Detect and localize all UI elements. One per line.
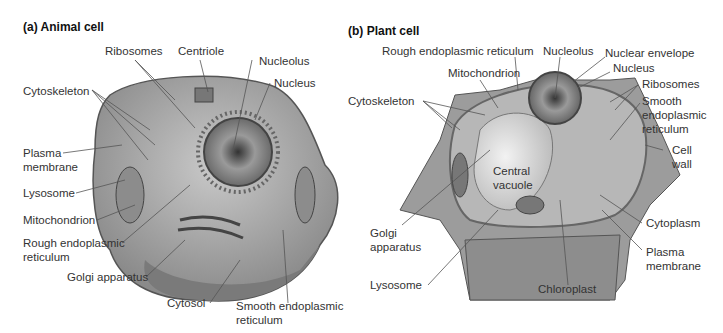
label-smooth-er-line1: Smooth endoplasmic xyxy=(236,300,343,312)
label-golgi-apparatus: Golgi apparatus xyxy=(370,226,421,254)
label-mitochondrion: Mitochondrion xyxy=(448,66,520,80)
label-nucleus: Nucleus xyxy=(613,61,655,75)
label-cytosol: Cytosol xyxy=(167,296,205,310)
label-nucleolus: Nucleolus xyxy=(259,54,310,68)
label-smooth-er-line2: reticulum xyxy=(236,314,283,326)
label-rough-er: Rough endoplasmic reticulum xyxy=(382,44,534,58)
label-plasma-membrane: Plasma membrane xyxy=(23,146,78,174)
label-central-vacuole: Central vacuole xyxy=(493,164,533,192)
label-central-vacuole-line1: Central xyxy=(493,165,530,177)
animal-cell-title: (a) Animal cell xyxy=(23,20,104,34)
label-golgi-apparatus: Golgi apparatus xyxy=(67,270,148,284)
label-lysosome: Lysosome xyxy=(23,186,75,200)
label-ribosomes: Ribosomes xyxy=(642,77,700,91)
label-rough-er-line1: Rough endoplasmic xyxy=(23,237,125,249)
plant-cell-panel: (b) Plant cell Rough endoplasmic reticul… xyxy=(360,0,723,333)
label-golgi-line1: Golgi xyxy=(370,227,397,239)
label-mitochondrion: Mitochondrion xyxy=(23,213,95,227)
label-nucleolus: Nucleolus xyxy=(543,44,594,58)
label-ribosomes: Ribosomes xyxy=(105,44,163,58)
label-lysosome: Lysosome xyxy=(370,278,422,292)
label-plasma-membrane-line2: membrane xyxy=(646,260,701,272)
label-plasma-membrane-line1: Plasma xyxy=(23,147,61,159)
label-smooth-er: Smooth endoplasmic reticulum xyxy=(642,94,707,136)
label-plasma-membrane: Plasma membrane xyxy=(646,245,701,273)
label-nucleus: Nucleus xyxy=(274,76,316,90)
label-nuclear-envelope: Nuclear envelope xyxy=(605,46,695,60)
label-golgi-line2: apparatus xyxy=(370,241,421,253)
label-smooth-er-line2: endoplasmic xyxy=(642,109,707,121)
animal-cell-panel: (a) Animal cell Ribosomes Centriole Nucl… xyxy=(0,0,360,333)
label-cell-wall: Cell wall xyxy=(672,143,692,171)
plant-cell-title: (b) Plant cell xyxy=(348,24,419,38)
label-central-vacuole-line2: vacuole xyxy=(493,179,533,191)
label-cell-wall-line2: wall xyxy=(672,158,692,170)
label-plasma-membrane-line1: Plasma xyxy=(646,246,684,258)
label-smooth-er-line1: Smooth xyxy=(642,95,682,107)
label-smooth-er: Smooth endoplasmic reticulum xyxy=(236,299,343,327)
label-cytoskeleton: Cytoskeleton xyxy=(348,94,414,108)
label-centriole: Centriole xyxy=(178,44,224,58)
label-smooth-er-line3: reticulum xyxy=(642,123,689,135)
label-cytoskeleton: Cytoskeleton xyxy=(23,84,89,98)
label-chloroplast: Chloroplast xyxy=(538,282,596,296)
label-cytoplasm: Cytoplasm xyxy=(646,216,700,230)
label-plasma-membrane-line2: membrane xyxy=(23,161,78,173)
label-rough-er: Rough endoplasmic reticulum xyxy=(23,236,125,264)
label-rough-er-line2: reticulum xyxy=(23,251,70,263)
label-cell-wall-line1: Cell xyxy=(672,144,692,156)
